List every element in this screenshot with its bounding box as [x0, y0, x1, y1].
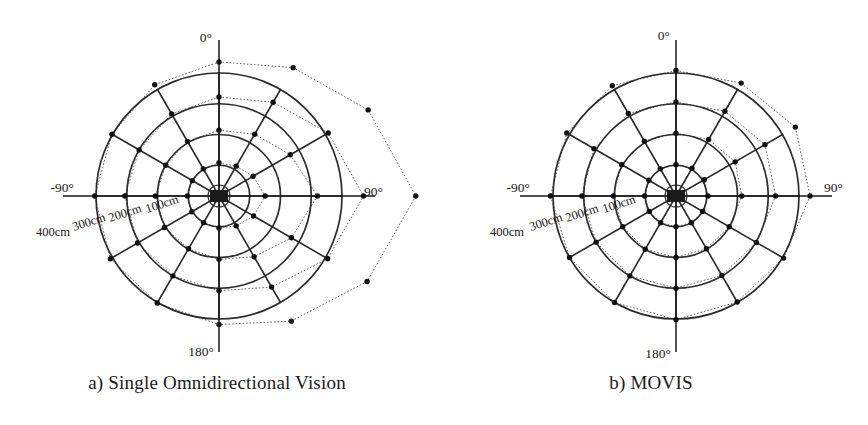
- origin-marker: [210, 190, 228, 202]
- polar-axes: [63, 40, 375, 352]
- data-point: [646, 178, 651, 183]
- data-point: [673, 131, 678, 136]
- data-point: [122, 193, 127, 198]
- data-point: [162, 225, 167, 230]
- data-point: [612, 300, 617, 305]
- data-point: [262, 193, 267, 198]
- data-point: [154, 300, 159, 305]
- data-point: [289, 235, 294, 240]
- data-point: [705, 193, 710, 198]
- data-point: [163, 163, 168, 168]
- data-point: [642, 193, 647, 198]
- data-point: [189, 209, 194, 214]
- data-point: [689, 220, 694, 225]
- data-point: [754, 240, 759, 245]
- origin-marker: [667, 190, 685, 202]
- data-point: [739, 193, 744, 198]
- data-point: [290, 65, 295, 70]
- radius-label-200cm: 200cm: [564, 201, 601, 225]
- data-point: [216, 127, 221, 132]
- data-point: [673, 317, 678, 322]
- data-point: [593, 239, 598, 244]
- data-point: [793, 124, 798, 129]
- data-point: [626, 111, 631, 116]
- data-point: [734, 299, 739, 304]
- data-point: [548, 193, 553, 198]
- data-point: [288, 152, 293, 157]
- data-point: [702, 177, 707, 182]
- data-point: [591, 146, 596, 151]
- data-point: [251, 213, 256, 218]
- data-point: [673, 162, 678, 167]
- data-point: [700, 209, 705, 214]
- data-point: [315, 193, 320, 198]
- radius-label-300cm: 300cm: [528, 210, 565, 234]
- data-point: [152, 82, 157, 87]
- data-point: [619, 162, 624, 167]
- data-point: [136, 147, 141, 152]
- angle-label-180: 180°: [645, 346, 671, 361]
- data-point: [738, 80, 743, 85]
- polar-axes: [520, 40, 832, 352]
- data-point: [807, 193, 812, 198]
- data-point: [732, 159, 737, 164]
- angle-label-0: 0°: [200, 30, 212, 45]
- polar-plot-a: 0°90°180°-90°100cm200cm300cm400cm: [0, 0, 434, 378]
- data-point: [642, 138, 647, 143]
- data-point: [689, 166, 694, 171]
- data-point: [781, 255, 786, 260]
- data-point: [567, 255, 572, 260]
- data-point: [108, 256, 113, 261]
- data-point: [270, 100, 275, 105]
- radius-label-300cm: 300cm: [71, 210, 108, 234]
- data-point: [135, 240, 140, 245]
- data-point: [762, 142, 767, 147]
- measured-contour-measured-300cm: [125, 97, 364, 291]
- data-point: [252, 132, 257, 137]
- data-point: [250, 174, 255, 179]
- data-point: [234, 163, 239, 168]
- data-point: [216, 225, 221, 230]
- data-point: [216, 59, 221, 64]
- caption-panel-b: b) MOVIS: [434, 372, 868, 394]
- data-point: [620, 224, 625, 229]
- angle-label-180: 180°: [188, 344, 214, 359]
- data-point: [186, 246, 191, 251]
- plot-labels: 0°90°180°-90°100cm200cm300cm400cm: [490, 28, 843, 361]
- data-point: [216, 322, 221, 327]
- radius-label-400cm: 400cm: [36, 225, 70, 239]
- data-point: [185, 193, 190, 198]
- angle-label-minus90: -90°: [507, 180, 530, 195]
- data-point: [643, 247, 648, 252]
- data-point: [647, 209, 652, 214]
- data-point: [673, 224, 678, 229]
- panel-single-omnidirectional-vision: 0°90°180°-90°100cm200cm300cm400cm a) Sin…: [0, 0, 434, 425]
- angle-label-90: 90°: [824, 180, 843, 195]
- data-point: [289, 318, 294, 323]
- data-point: [413, 193, 418, 198]
- data-point: [610, 83, 615, 88]
- data-point: [364, 279, 369, 284]
- data-point: [365, 107, 370, 112]
- data-point: [216, 94, 221, 99]
- data-point: [325, 256, 330, 261]
- data-point: [673, 68, 678, 73]
- data-point: [325, 130, 330, 135]
- data-point: [251, 254, 256, 259]
- radius-label-400cm: 400cm: [490, 225, 524, 239]
- data-point: [216, 160, 221, 165]
- data-point: [773, 193, 778, 198]
- data-point: [704, 246, 709, 251]
- data-point: [564, 130, 569, 135]
- data-point: [627, 273, 632, 278]
- data-point: [673, 286, 678, 291]
- data-point: [722, 109, 727, 114]
- data-point: [706, 137, 711, 142]
- plot-labels: 0°90°180°-90°100cm200cm300cm400cm: [36, 30, 383, 359]
- caption-panel-a: a) Single Omnidirectional Vision: [0, 372, 434, 394]
- data-point: [92, 193, 97, 198]
- data-point: [719, 273, 724, 278]
- data-point: [269, 284, 274, 289]
- data-point: [727, 224, 732, 229]
- data-point: [201, 166, 206, 171]
